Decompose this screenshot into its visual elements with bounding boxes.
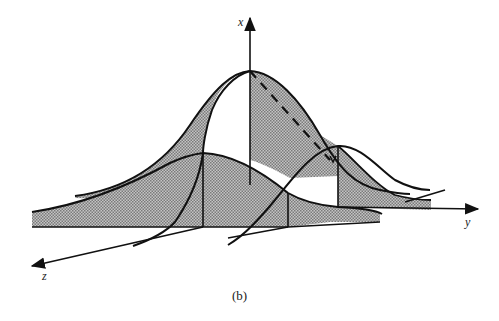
x-axis-label: x	[238, 16, 243, 28]
z-axis	[32, 227, 203, 266]
figure-caption: (b)	[232, 289, 247, 302]
secondary-baseline	[228, 227, 288, 238]
y-axis-label: y	[465, 216, 470, 228]
z-axis-label: z	[42, 270, 47, 282]
gaussian-surface-diagram	[0, 0, 499, 321]
